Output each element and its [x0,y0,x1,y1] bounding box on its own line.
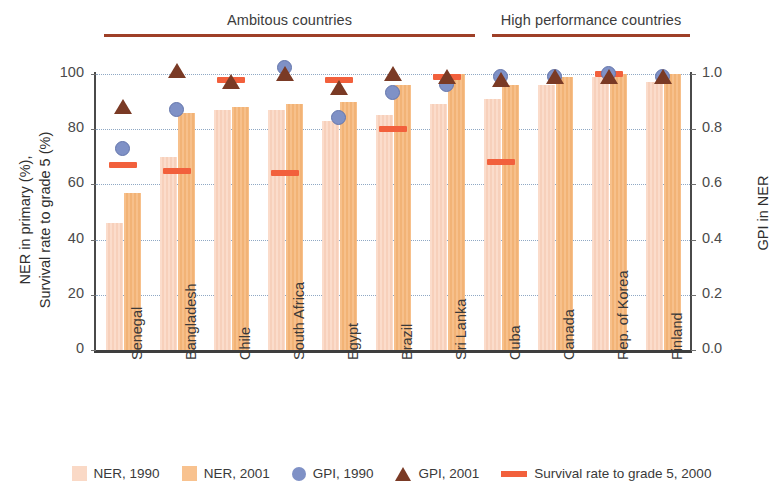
legend-item-ner-1990[interactable]: NER, 1990 [72,466,160,481]
bar-ner-1990 [106,223,123,350]
bar-ner-1990 [322,121,339,350]
y-axis-left-line [94,72,96,352]
marker-gpi-2001 [222,74,240,89]
legend-swatch-triangle-icon [395,467,411,481]
legend-item-label: GPI, 1990 [313,466,374,481]
marker-survival-rate-2000 [163,168,191,174]
y-axis-right-tick-label: 0.4 [702,230,748,246]
bar-ner-1990 [268,110,285,350]
marker-gpi-1990 [115,141,130,156]
y-axis-right-tick-mark [691,350,696,351]
chart-page: Ambitous countries High performance coun… [0,0,783,499]
marker-gpi-2001 [600,69,618,84]
marker-gpi-2001 [384,66,402,81]
y-axis-left-title-line1: NER in primary (%), [15,90,35,350]
y-axis-right-tick-mark [691,129,696,130]
legend-swatch-square-icon [72,466,87,481]
legend-swatch-square-icon [182,466,197,481]
marker-survival-rate-2000 [271,170,299,176]
x-axis-category-label: Rep. of Korea [615,271,631,360]
x-axis-category-label: Senegal [129,307,145,360]
y-axis-left-tick-label: 0 [38,340,84,356]
y-axis-right-tick-label: 0.6 [702,174,748,190]
bar-ner-2001 [232,107,249,350]
y-axis-right-tick-label: 0.2 [702,285,748,301]
group-band-label: High performance countries [492,12,690,28]
group-band-label: Ambitous countries [104,12,475,28]
y-axis-left-tick-mark [91,350,96,351]
bar-ner-2001 [664,74,681,350]
marker-gpi-2001 [546,69,564,84]
marker-survival-rate-2000 [487,159,515,165]
legend-swatch-dash-icon [501,471,527,477]
y-axis-left-tick-label: 60 [38,174,84,190]
legend-item-survival-2000[interactable]: Survival rate to grade 5, 2000 [501,466,711,481]
legend-item-label: NER, 1990 [94,466,160,481]
y-axis-right-line [690,72,692,352]
chart-legend: NER, 1990NER, 2001GPI, 1990GPI, 2001Surv… [0,466,783,481]
marker-gpi-2001 [168,63,186,78]
y-axis-right-title: GPI in NER [755,138,771,288]
bar-ner-1990 [592,77,609,350]
y-axis-left-tick-mark [91,74,96,75]
bar-ner-2001 [502,85,519,350]
y-axis-left-tick-label: 40 [38,230,84,246]
marker-gpi-2001 [276,66,294,81]
marker-gpi-2001 [492,72,510,87]
x-axis-category-label: South Africa [291,282,307,360]
bar-ner-1990 [160,157,177,350]
group-band-ambitous: Ambitous countries [104,12,475,37]
y-axis-left-tick-mark [91,129,96,130]
x-axis-category-label: Egypt [345,323,361,360]
y-axis-right-tick-label: 1.0 [702,64,748,80]
bar-ner-1990 [484,99,501,350]
y-axis-left-tick-label: 20 [38,285,84,301]
legend-item-ner-2001[interactable]: NER, 2001 [182,466,270,481]
x-axis-category-label: Cuba [507,325,523,360]
marker-survival-rate-2000 [109,162,137,168]
legend-item-label: GPI, 2001 [418,466,479,481]
marker-gpi-2001 [438,69,456,84]
bar-ner-1990 [646,82,663,350]
y-axis-right-tick-mark [691,74,696,75]
legend-item-label: Survival rate to grade 5, 2000 [534,466,711,481]
marker-gpi-2001 [114,99,132,114]
y-axis-right-tick-mark [691,184,696,185]
marker-gpi-2001 [330,80,348,95]
bar-ner-2001 [340,102,357,350]
y-axis-left-tick-mark [91,184,96,185]
legend-item-gpi-2001[interactable]: GPI, 2001 [395,466,479,481]
legend-swatch-circle-icon [292,467,306,481]
y-axis-right-tick-mark [691,240,696,241]
x-axis-category-label: Sri Lanka [453,299,469,360]
y-axis-left-tick-mark [91,240,96,241]
marker-gpi-1990 [169,102,184,117]
bar-ner-1990 [538,85,555,350]
y-axis-left-tick-mark [91,295,96,296]
bar-ner-1990 [376,115,393,350]
group-band-rule [104,34,475,37]
x-axis-category-label: Bangladesh [183,283,199,360]
marker-gpi-2001 [654,69,672,84]
bar-ner-1990 [214,110,231,350]
x-axis-category-label: Finland [669,312,685,360]
bar-ner-1990 [430,104,447,350]
y-axis-left-tick-label: 100 [38,64,84,80]
y-axis-right-tick-label: 0.8 [702,119,748,135]
y-axis-right-tick-mark [691,295,696,296]
bar-ner-2001 [394,85,411,350]
marker-survival-rate-2000 [379,126,407,132]
legend-item-label: NER, 2001 [204,466,270,481]
y-axis-left-tick-label: 80 [38,119,84,135]
legend-item-gpi-1990[interactable]: GPI, 1990 [292,466,374,481]
x-axis-category-label: Brazil [399,324,415,360]
y-axis-right-tick-label: 0.0 [702,340,748,356]
group-band-high-performance: High performance countries [492,12,690,37]
group-band-rule [492,34,690,37]
x-axis-category-label: Chile [237,327,253,360]
x-axis-category-label: Canada [561,309,577,360]
